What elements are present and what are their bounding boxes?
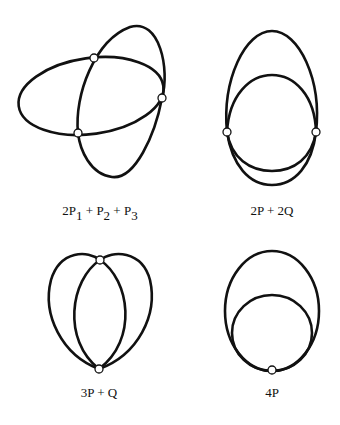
point-p (223, 128, 231, 136)
inner-circle (227, 75, 316, 171)
inner-lens-left (74, 260, 100, 369)
figure-3p-q (49, 254, 152, 373)
outer-ellipse (226, 31, 317, 185)
label-3p-q: 3P + Q (81, 385, 117, 401)
label-2p-2q: 2P + 2Q (251, 203, 294, 219)
point-p1-top (90, 54, 98, 62)
figure-2p1-p2-p3 (13, 26, 168, 177)
point-p2-right (158, 94, 166, 102)
label-sub-3: 3 (131, 208, 138, 223)
label-term-1: 2P (62, 203, 76, 218)
figure-2p-2q (223, 31, 320, 185)
point-p-top (96, 256, 104, 264)
point-p (268, 366, 276, 374)
label-term-2: + P (83, 203, 104, 218)
horizontal-ellipse (13, 48, 168, 144)
figure-4p (225, 251, 319, 374)
point-q (312, 128, 320, 136)
point-q-bottom (95, 365, 103, 373)
tall-ellipse (78, 26, 165, 177)
label-term-3: + P (110, 203, 131, 218)
label-4p: 4P (265, 385, 279, 401)
point-p1-bottom (74, 129, 82, 137)
inner-lens-right (99, 260, 125, 369)
label-2p1-p2-p3: 2P1 + P2 + P3 (62, 203, 137, 219)
inner-circle (232, 295, 312, 371)
